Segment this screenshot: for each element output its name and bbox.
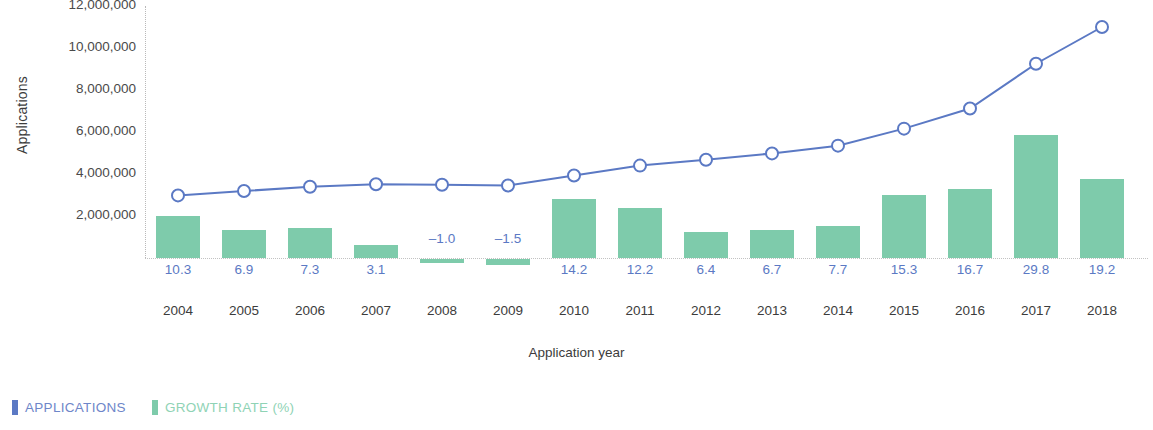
line-marker xyxy=(436,179,448,191)
legend-item[interactable]: APPLICATIONS xyxy=(12,400,126,415)
line-marker xyxy=(238,185,250,197)
growth-rate-label: 19.2 xyxy=(1062,262,1142,277)
line-marker xyxy=(304,181,316,193)
line-marker xyxy=(964,102,976,114)
legend-label: APPLICATIONS xyxy=(25,400,126,415)
line-marker xyxy=(172,189,184,201)
bar xyxy=(486,259,530,265)
growth-rate-label: 3.1 xyxy=(336,262,416,277)
y-tick-label: 8,000,000 xyxy=(24,81,136,96)
line-marker xyxy=(502,180,514,192)
legend-swatch-icon xyxy=(152,400,158,415)
y-tick-label: 12,000,000 xyxy=(24,0,136,12)
legend-label: GROWTH RATE (%) xyxy=(165,400,295,415)
line-marker xyxy=(634,160,646,172)
line-marker xyxy=(700,154,712,166)
chart-legend: APPLICATIONSGROWTH RATE (%) xyxy=(12,400,294,415)
y-axis-tick-labels: 2,000,0004,000,0006,000,0008,000,00010,0… xyxy=(20,0,136,270)
line-marker xyxy=(766,147,778,159)
growth-rate-label: –1.5 xyxy=(468,231,548,246)
line-marker xyxy=(1030,58,1042,70)
x-axis-title: Application year xyxy=(0,345,1153,360)
combo-chart: Applications 2,000,0004,000,0006,000,000… xyxy=(0,0,1153,430)
line-marker xyxy=(370,178,382,190)
y-tick-label: 10,000,000 xyxy=(24,39,136,54)
y-tick-label: 6,000,000 xyxy=(24,123,136,138)
line-marker xyxy=(898,123,910,135)
bar xyxy=(420,259,464,263)
y-tick-label: 2,000,000 xyxy=(24,207,136,222)
line-marker xyxy=(1096,21,1108,33)
line-marker xyxy=(568,169,580,181)
y-tick-label: 4,000,000 xyxy=(24,165,136,180)
legend-swatch-icon xyxy=(12,400,18,415)
year-label: 2018 xyxy=(1062,303,1142,318)
line-marker xyxy=(832,140,844,152)
line-series-applications xyxy=(145,6,1135,258)
legend-item[interactable]: GROWTH RATE (%) xyxy=(152,400,295,415)
